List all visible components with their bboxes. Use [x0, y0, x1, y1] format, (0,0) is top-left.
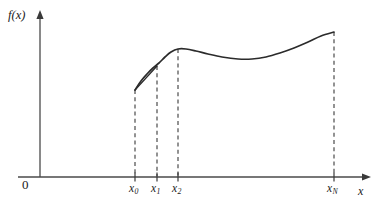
tick-label-x0-sub: 0 — [134, 187, 138, 196]
tick-label-xN-sub: N — [332, 187, 337, 196]
tick-label-x0: x0 — [129, 183, 138, 196]
y-axis-label: f(x) — [8, 9, 25, 22]
tick-label-xN: xN — [327, 183, 338, 196]
x-axis-label: x — [358, 185, 363, 197]
tick-label-x1-sub: 1 — [156, 187, 160, 196]
function-plot-figure — [0, 0, 384, 208]
origin-label: 0 — [22, 178, 29, 191]
tick-label-x2: x2 — [172, 183, 181, 196]
tick-label-x1: x1 — [151, 183, 160, 196]
tick-label-x2-sub: 2 — [177, 187, 181, 196]
